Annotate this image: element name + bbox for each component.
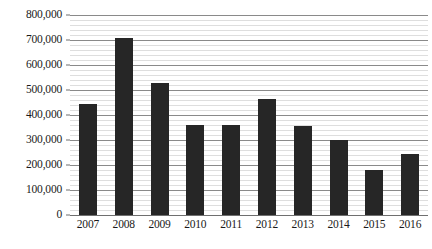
y-tick-label: 0 (56, 209, 62, 221)
x-tick-label: 2014 (327, 218, 349, 232)
bar (79, 104, 97, 215)
x-tick-label: 2011 (220, 218, 242, 232)
y-tick-label: 400,000 (26, 109, 62, 121)
bar (115, 38, 133, 216)
plot-area (70, 15, 428, 215)
bar-chart: 0100,000200,000300,000400,000500,000600,… (0, 0, 432, 249)
x-tick-label: 2016 (399, 218, 421, 232)
y-tick-label: 500,000 (26, 84, 62, 96)
x-tick-label: 2012 (256, 218, 278, 232)
y-tick-label: 100,000 (26, 184, 62, 196)
x-tick-label: 2010 (184, 218, 206, 232)
y-tick-label: 800,000 (26, 9, 62, 21)
y-tick-label: 600,000 (26, 59, 62, 71)
bar (365, 170, 383, 215)
bar (222, 125, 240, 215)
bar-series (70, 15, 428, 215)
y-tick-label: 200,000 (26, 159, 62, 171)
x-tick-label: 2008 (113, 218, 135, 232)
x-axis: 2007200820092010201120122013201420152016 (70, 218, 428, 242)
x-tick-label: 2007 (77, 218, 99, 232)
y-tick-label: 700,000 (26, 34, 62, 46)
bar (294, 126, 312, 216)
x-tick-label: 2015 (363, 218, 385, 232)
bar (258, 99, 276, 215)
bar (151, 83, 169, 216)
x-tick-label: 2013 (292, 218, 314, 232)
y-axis: 0100,000200,000300,000400,000500,000600,… (0, 0, 66, 249)
bar (186, 125, 204, 215)
bar (330, 140, 348, 215)
axis-baseline (70, 215, 428, 216)
x-tick-label: 2009 (148, 218, 170, 232)
y-tick-label: 300,000 (26, 134, 62, 146)
bar (401, 154, 419, 215)
